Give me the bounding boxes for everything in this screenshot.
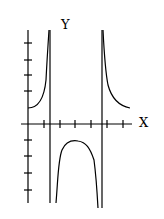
- curve-left: [28, 30, 49, 108]
- y-axis-label: Y: [61, 17, 70, 32]
- graph: Y X: [0, 0, 164, 219]
- curve-middle: [56, 141, 98, 208]
- plot-svg: [0, 0, 164, 219]
- x-axis-label: X: [139, 115, 148, 130]
- curve-right: [103, 30, 130, 108]
